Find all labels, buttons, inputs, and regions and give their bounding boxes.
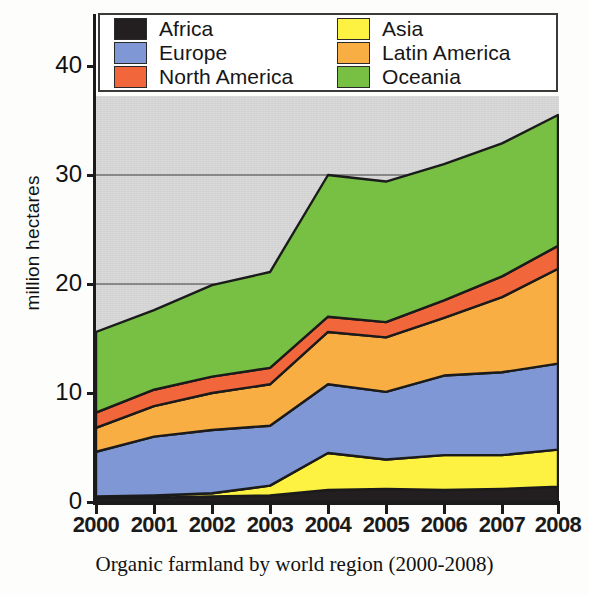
y-tick-mark xyxy=(87,392,95,395)
y-tick-label: 0 xyxy=(22,489,82,513)
legend-item[interactable]: Africa xyxy=(114,17,333,41)
figure-caption: Organic farmland by world region (2000-2… xyxy=(0,552,589,577)
chart-figure: million hectares 010203040 2000200120022… xyxy=(0,0,589,595)
legend-column-left: AfricaEuropeNorth America xyxy=(100,15,333,90)
legend-swatch-icon xyxy=(114,18,147,40)
x-tick-mark xyxy=(153,505,156,514)
legend-swatch-icon xyxy=(337,66,370,88)
legend: AfricaEuropeNorth America AsiaLatin Amer… xyxy=(98,13,558,92)
x-tick-mark xyxy=(269,505,272,514)
x-tick-mark xyxy=(327,505,330,514)
x-tick-mark xyxy=(95,505,98,514)
x-tick-label: 2008 xyxy=(523,512,589,538)
legend-item[interactable]: Latin America xyxy=(337,41,556,65)
x-tick-mark xyxy=(211,505,214,514)
legend-swatch-icon xyxy=(114,42,147,64)
stacked-area-series xyxy=(96,96,559,503)
y-tick-mark xyxy=(87,501,95,504)
y-tick-mark xyxy=(87,65,95,68)
y-tick-label: 30 xyxy=(22,162,82,186)
x-tick-mark xyxy=(501,505,504,514)
y-tick-mark xyxy=(87,283,95,286)
legend-item[interactable]: North America xyxy=(114,65,333,89)
legend-label: Africa xyxy=(159,17,213,41)
legend-swatch-icon xyxy=(114,66,147,88)
plot-area xyxy=(96,96,559,503)
legend-label: Latin America xyxy=(382,41,511,65)
x-tick-mark xyxy=(557,505,560,514)
legend-swatch-icon xyxy=(337,18,370,40)
legend-swatch-icon xyxy=(337,42,370,64)
legend-label: Europe xyxy=(159,41,227,65)
legend-label: Asia xyxy=(382,17,423,41)
y-tick-mark xyxy=(87,174,95,177)
y-tick-label: 10 xyxy=(22,380,82,404)
legend-column-right: AsiaLatin AmericaOceania xyxy=(333,15,556,90)
legend-item[interactable]: Oceania xyxy=(337,65,556,89)
legend-item[interactable]: Europe xyxy=(114,41,333,65)
y-tick-label: 40 xyxy=(22,53,82,77)
y-axis-ticks: 010203040 xyxy=(20,0,82,595)
y-tick-label: 20 xyxy=(22,271,82,295)
legend-label: North America xyxy=(159,65,293,89)
x-tick-mark xyxy=(443,505,446,514)
legend-item[interactable]: Asia xyxy=(337,17,556,41)
x-axis-ticks: 200020012002200320042005200620072008 xyxy=(0,512,589,548)
x-tick-mark xyxy=(385,505,388,514)
legend-label: Oceania xyxy=(382,65,461,89)
